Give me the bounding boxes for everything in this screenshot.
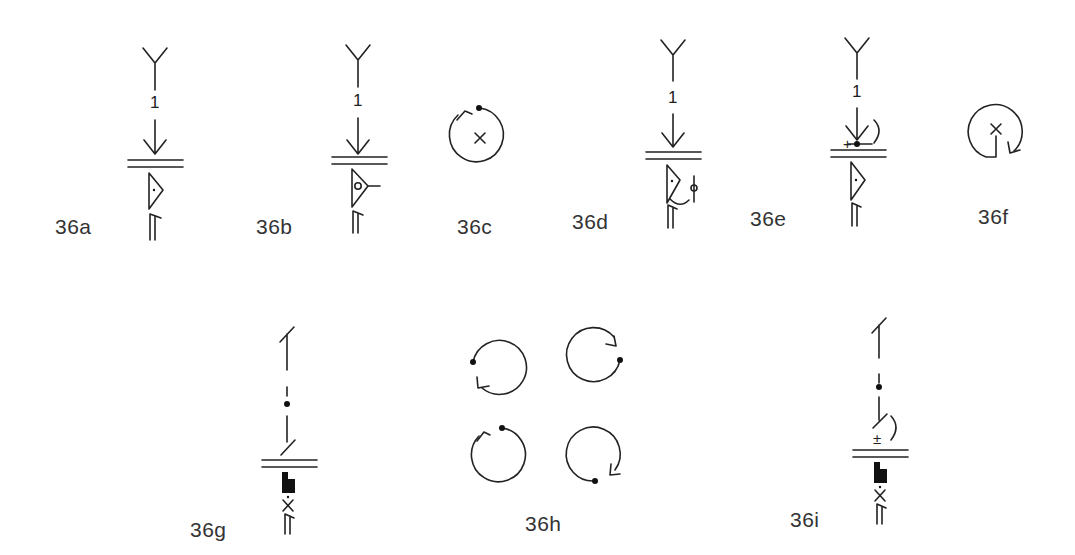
svg-text:1: 1: [668, 88, 677, 107]
fork-icon: [346, 45, 370, 87]
fork-icon: [845, 38, 869, 79]
body-part-block-icon: [874, 462, 887, 483]
pin-circle-icon: [355, 183, 361, 189]
body-part-block-icon: [282, 472, 295, 493]
hold-sign-icon: [150, 214, 161, 240]
hold-sign-icon: [353, 211, 363, 233]
symbol-36i: ±: [853, 318, 908, 524]
svg-text:1: 1: [150, 93, 159, 112]
notation-figure: 1 1 1: [0, 0, 1075, 555]
bracket-icon: [874, 120, 879, 143]
arrow-down-icon: [144, 120, 166, 154]
symbol-36d: 1: [646, 40, 701, 228]
fork-icon: [661, 40, 685, 81]
direction-triangle-icon: [149, 173, 163, 209]
slash-bottom-icon: [873, 397, 887, 428]
symbol-36a: 1: [128, 48, 183, 240]
label-36f: 36f: [978, 205, 1009, 229]
hold-sign-icon: [668, 205, 677, 228]
bracket-icon: [891, 416, 896, 440]
dot-icon: [284, 401, 290, 407]
label-36a: 36a: [55, 215, 92, 239]
hold-sign-icon: [877, 504, 886, 524]
symbol-36h: [470, 328, 623, 484]
symbol-36c: [449, 105, 503, 162]
hold-sign-icon: [285, 514, 294, 534]
cross-icon: [991, 124, 1001, 134]
label-36e: 36e: [750, 207, 787, 231]
symbol-36g: [262, 327, 317, 534]
label-36g: 36g: [190, 518, 227, 542]
svg-text:1: 1: [852, 82, 861, 101]
curved-bow-icon: [670, 199, 689, 204]
cross-icon: [875, 490, 885, 501]
svg-text:1: 1: [353, 91, 362, 110]
dot-icon: [854, 141, 860, 147]
label-36c: 36c: [457, 215, 492, 239]
rotation-circle-icon: [471, 428, 525, 482]
arrow-down-icon: [662, 114, 684, 147]
slash-top-icon: [872, 318, 886, 358]
slash-top-icon: [280, 327, 294, 370]
symbol-36f: [968, 105, 1022, 157]
direction-triangle-icon: [667, 165, 680, 203]
label-36i: 36i: [790, 508, 820, 532]
slash-bottom-icon: [281, 416, 295, 455]
rotation-circle-icon: [567, 328, 620, 382]
cross-icon: [283, 500, 293, 511]
label-36h: 36h: [525, 512, 562, 536]
label-36b: 36b: [256, 215, 293, 239]
symbol-36b: 1: [332, 45, 387, 233]
cross-icon: [475, 133, 485, 143]
hold-sign-icon: [852, 203, 861, 226]
label-36d: 36d: [572, 210, 609, 234]
symbol-36e: 1 +: [831, 38, 886, 226]
direction-triangle-icon: [851, 162, 865, 200]
rotation-circle-icon: [566, 427, 620, 481]
arrow-head-icon: [457, 111, 472, 120]
svg-text:±: ±: [873, 430, 881, 447]
fork-icon: [143, 48, 167, 90]
dot-icon: [876, 384, 882, 390]
arrow-head-icon: [1008, 142, 1020, 153]
rotation-circle-icon: [473, 340, 526, 394]
arrow-down-icon: [347, 118, 369, 154]
